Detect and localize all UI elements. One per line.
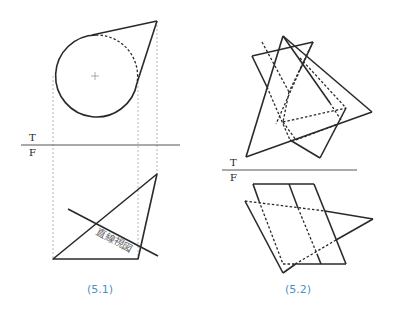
tangent-line-right bbox=[137, 21, 157, 83]
figure-caption-5-1: (5.1) bbox=[87, 283, 113, 296]
figure-5-2: T F (5.2) bbox=[222, 36, 373, 296]
fold-label-front: F bbox=[230, 172, 237, 183]
fold-label-front: F bbox=[29, 147, 36, 158]
front-triangle-edge-top-hidden bbox=[245, 201, 325, 211]
hidden-line-5 bbox=[283, 108, 346, 122]
front-quad-edge-left-hidden bbox=[259, 201, 283, 264]
fold-label-top: T bbox=[230, 157, 237, 168]
front-quad-edge-right bbox=[314, 184, 346, 264]
front-mid-line-a bbox=[289, 184, 298, 208]
top-quad-edge-lower-right bbox=[320, 108, 346, 158]
tangent-line-top bbox=[92, 21, 157, 35]
figure-5-1: T F 直線視図 (5.1) bbox=[21, 21, 180, 296]
diagram-canvas: T F 直線視図 (5.1) T bbox=[0, 0, 396, 310]
circle-hidden-arc bbox=[96, 35, 138, 83]
front-quad-edge-left-a bbox=[253, 184, 259, 201]
top-quad-edge-left-b bbox=[290, 140, 320, 158]
front-view-triangle bbox=[53, 174, 157, 259]
fold-label-top: T bbox=[29, 132, 36, 143]
top-quad-edge-left-hidden bbox=[267, 87, 290, 140]
front-triangle-edge-right-hidden bbox=[297, 240, 336, 263]
front-mid-line-b bbox=[317, 254, 321, 264]
front-triangle-edge-right-a bbox=[336, 219, 373, 240]
front-mid-line-hidden bbox=[298, 208, 317, 254]
front-triangle-edge-top bbox=[325, 211, 373, 219]
top-triangle-edge-left bbox=[246, 36, 283, 157]
top-quad-edge-left-a bbox=[252, 56, 267, 87]
hidden-line-4 bbox=[283, 92, 289, 122]
front-triangle-edge-left bbox=[245, 201, 283, 273]
figure-caption-5-2: (5.2) bbox=[285, 283, 311, 296]
edge-view-annotation: 直線視図 bbox=[94, 225, 135, 254]
